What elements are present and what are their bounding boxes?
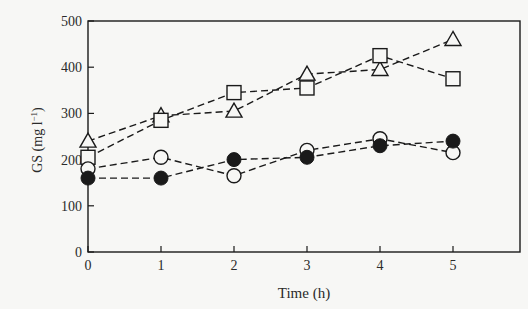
series-line [88, 56, 453, 158]
open-circle-marker-icon [227, 169, 241, 183]
series-open-square [81, 49, 460, 165]
x-tick-label: 4 [377, 258, 384, 273]
square-marker-icon [227, 86, 241, 100]
filled-circle-marker-icon [154, 171, 168, 185]
filled-circle-marker-icon [81, 171, 95, 185]
x-tick-label: 0 [85, 258, 92, 273]
data-series [80, 31, 461, 185]
filled-circle-marker-icon [373, 139, 387, 153]
x-tick-label: 3 [304, 258, 311, 273]
x-tick-label: 2 [231, 258, 238, 273]
y-tick-label: 500 [61, 14, 82, 29]
line-chart: 0100200300400500 012345 Time (h) GS (mg … [0, 0, 528, 309]
triangle-marker-icon [372, 62, 388, 76]
square-marker-icon [373, 49, 387, 63]
y-tick-label: 0 [75, 245, 82, 260]
square-marker-icon [154, 113, 168, 127]
series-line [88, 39, 453, 141]
open-circle-marker-icon [154, 150, 168, 164]
series-filled-circle [81, 134, 460, 185]
y-tick-label: 200 [61, 153, 82, 168]
triangle-marker-icon [226, 103, 242, 117]
x-axis-label: Time (h) [278, 285, 330, 302]
filled-circle-marker-icon [300, 150, 314, 164]
y-tick-label: 100 [61, 199, 82, 214]
triangle-marker-icon [445, 31, 461, 45]
x-axis-ticks: 012345 [85, 246, 457, 273]
square-marker-icon [300, 81, 314, 95]
x-tick-label: 5 [450, 258, 457, 273]
chart-svg: 0100200300400500 012345 Time (h) GS (mg … [0, 0, 528, 309]
svg-text:GS (mg l−1): GS (mg l−1) [29, 107, 46, 173]
y-tick-label: 400 [61, 60, 82, 75]
filled-circle-marker-icon [446, 134, 460, 148]
y-axis-label: GS (mg l−1) [29, 107, 46, 173]
y-tick-label: 300 [61, 106, 82, 121]
filled-circle-marker-icon [227, 153, 241, 167]
series-open-triangle [80, 31, 461, 147]
triangle-marker-icon [80, 133, 96, 147]
series-open-circle [81, 132, 460, 183]
square-marker-icon [446, 72, 460, 86]
x-tick-label: 1 [158, 258, 165, 273]
